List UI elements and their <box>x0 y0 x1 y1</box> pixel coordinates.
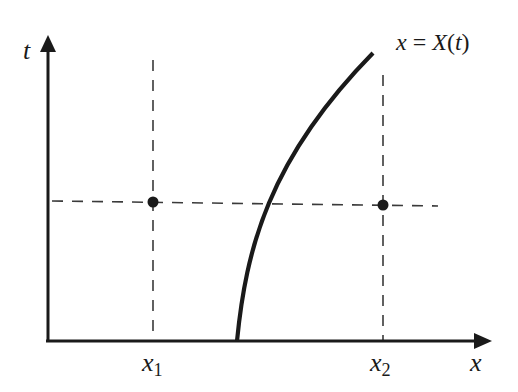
t-axis-label: t <box>23 38 30 64</box>
axes <box>46 50 476 342</box>
x-axis-arrowhead-icon <box>474 333 492 349</box>
x2-label-subscript: 2 <box>382 360 391 380</box>
x-axis-label: x <box>470 350 482 376</box>
curve-label-argument: t <box>455 29 462 55</box>
x2-label-base: x <box>370 348 382 377</box>
trajectory-curve <box>237 53 373 341</box>
curve-label-argument-close: ) <box>462 29 470 55</box>
x1-label-base: x <box>142 348 154 377</box>
point-x1 <box>148 197 159 208</box>
x1-label: x1 <box>142 350 163 380</box>
curve-label-equals: = <box>413 29 427 55</box>
curve-label-lhs: x <box>396 29 407 55</box>
guide-lines <box>52 60 438 340</box>
curve-label-argument-paren: ( <box>447 29 455 55</box>
spacetime-diagram <box>0 0 518 392</box>
curve-equation-label: x = X(t) <box>396 30 470 54</box>
x1-label-subscript: 1 <box>154 360 163 380</box>
point-x2 <box>378 200 389 211</box>
x2-label: x2 <box>370 350 391 380</box>
t-axis-arrowhead-icon <box>40 35 56 52</box>
curve-label-function: X <box>432 29 447 55</box>
